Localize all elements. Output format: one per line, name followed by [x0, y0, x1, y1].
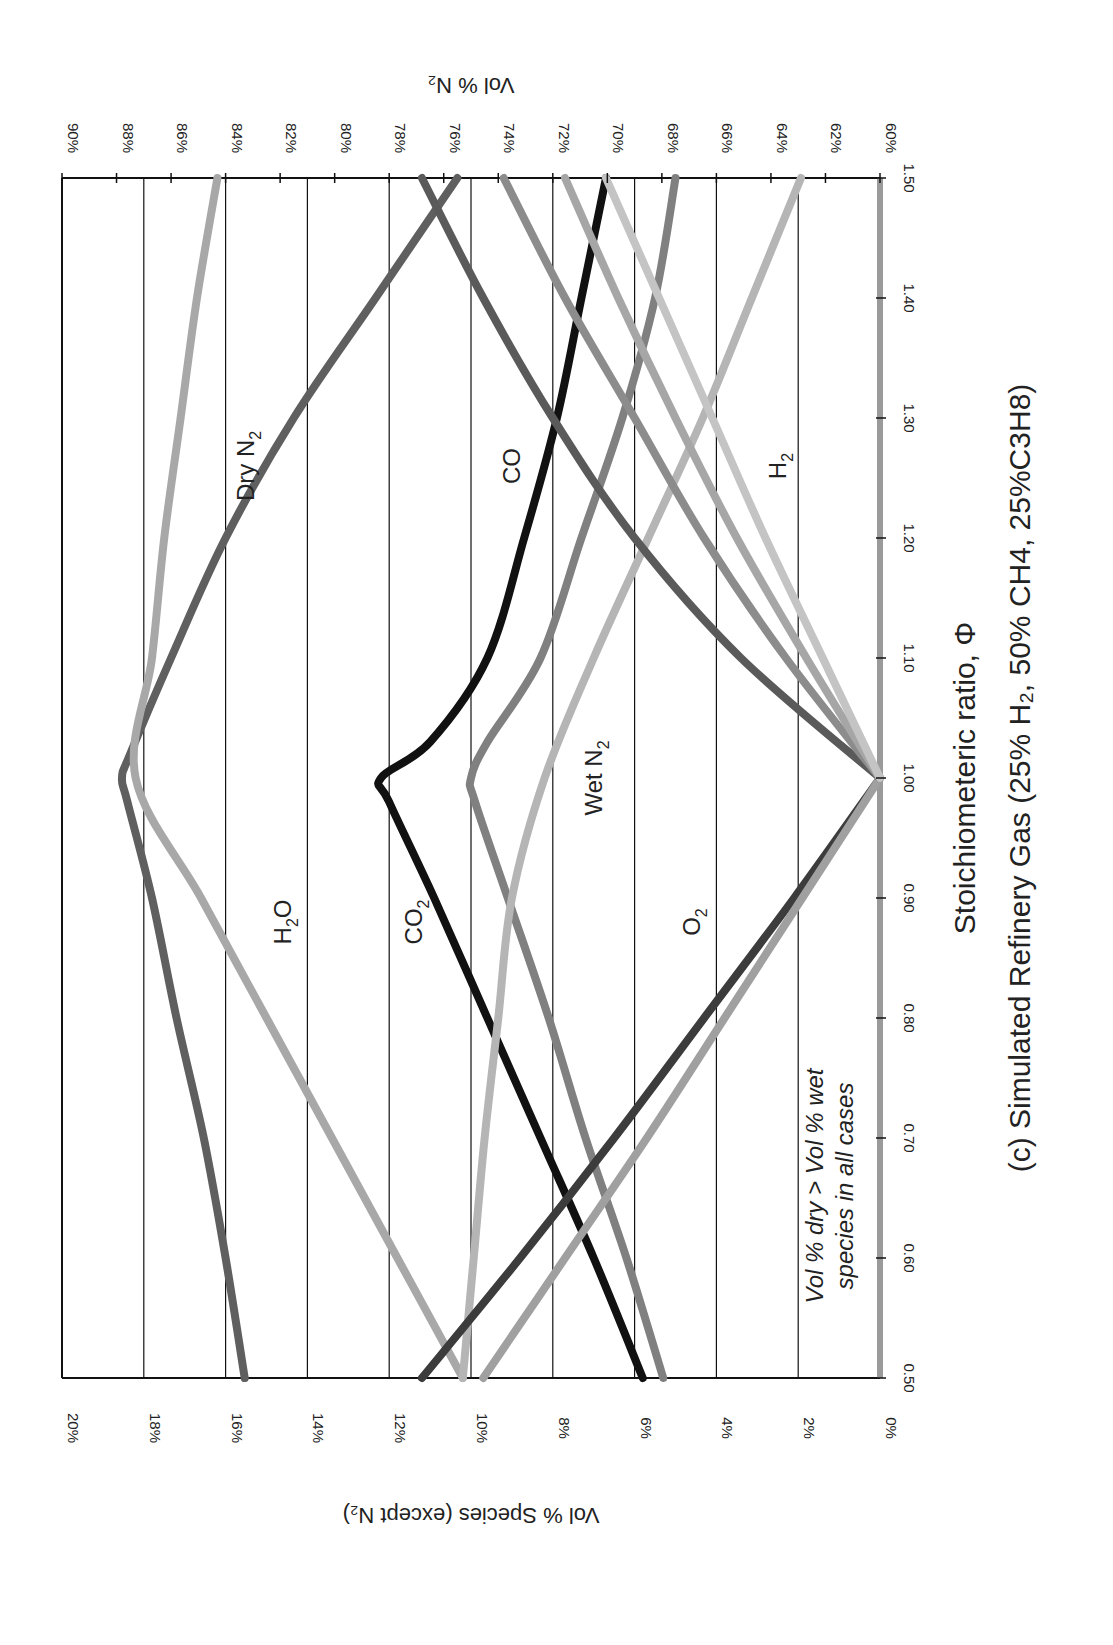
svg-text:species in all cases: species in all cases — [831, 1083, 858, 1290]
y-tick-label: 6% — [638, 1417, 655, 1439]
y2-tick-label: 60% — [883, 123, 900, 153]
svg-text:90%: 90% — [65, 123, 82, 153]
svg-text:0%: 0% — [883, 1417, 900, 1439]
svg-text:1.10: 1.10 — [901, 643, 918, 672]
svg-text:66%: 66% — [719, 123, 736, 153]
series-label: H2O — [269, 900, 301, 945]
y2-tick-label: 74% — [501, 123, 518, 153]
x-axis-title: Stoichiometeric ratio, Φ — [948, 622, 981, 934]
series-labels: Dry N2COH2H2OCO2O2Wet N2Vol % dry > Vol … — [232, 431, 858, 1304]
svg-text:CO2: CO2 — [400, 899, 432, 944]
series-line-dry-n2 — [122, 178, 457, 1378]
y-tick-label: 14% — [310, 1413, 327, 1443]
x-tick-label: 1.00 — [901, 763, 918, 792]
svg-text:1.00: 1.00 — [901, 763, 918, 792]
svg-text:14%: 14% — [310, 1413, 327, 1443]
svg-text:CO: CO — [498, 448, 525, 484]
x-tick-label: 1.30 — [901, 403, 918, 432]
y2-tick-label: 84% — [229, 123, 246, 153]
svg-text:10%: 10% — [474, 1413, 491, 1443]
y-tick-label: 20% — [65, 1413, 82, 1443]
x-tick-label: 1.50 — [901, 163, 918, 192]
y2-tick-label: 86% — [174, 123, 191, 153]
y2-tick-label: 76% — [447, 123, 464, 153]
x-tick-label: 0.80 — [901, 1003, 918, 1032]
rotated-line-chart: 0%2%4%6%8%10%12%14%16%18%20%60%62%64%66%… — [0, 0, 1113, 1645]
y-tick-label: 12% — [392, 1413, 409, 1443]
series-label: Wet N2 — [580, 740, 612, 815]
svg-text:20%: 20% — [65, 1413, 82, 1443]
svg-text:1.40: 1.40 — [901, 283, 918, 312]
svg-text:76%: 76% — [447, 123, 464, 153]
y-tick-label: 10% — [474, 1413, 491, 1443]
svg-text:70%: 70% — [610, 123, 627, 153]
svg-text:1.20: 1.20 — [901, 523, 918, 552]
svg-text:Dry N2: Dry N2 — [232, 431, 264, 501]
svg-text:Wet N2: Wet N2 — [580, 740, 612, 815]
svg-text:16%: 16% — [229, 1413, 246, 1443]
svg-text:78%: 78% — [392, 123, 409, 153]
svg-text:Stoichiometeric ratio, Φ: Stoichiometeric ratio, Φ — [948, 622, 981, 934]
y-tick-label: 0% — [883, 1417, 900, 1439]
y-axis-title: Vol % Species (except N₂) — [343, 1503, 600, 1528]
y2-tick-label: 90% — [65, 123, 82, 153]
y2-tick-label: 64% — [774, 123, 791, 153]
chart-title: (c) Simulated Refinery Gas (25% H₂, 50% … — [1003, 384, 1036, 1173]
svg-text:64%: 64% — [774, 123, 791, 153]
x-tick-label: 0.70 — [901, 1123, 918, 1152]
svg-text:Vol % dry > Vol % wet: Vol % dry > Vol % wet — [801, 1067, 828, 1303]
svg-text:68%: 68% — [665, 123, 682, 153]
y2-tick-label: 68% — [665, 123, 682, 153]
y2-tick-label: 88% — [120, 123, 137, 153]
svg-text:2%: 2% — [801, 1417, 818, 1439]
svg-text:1.50: 1.50 — [901, 163, 918, 192]
svg-text:88%: 88% — [120, 123, 137, 153]
svg-text:O2: O2 — [678, 908, 710, 936]
x-tick-label: 0.60 — [901, 1243, 918, 1272]
svg-text:1.30: 1.30 — [901, 403, 918, 432]
svg-text:12%: 12% — [392, 1413, 409, 1443]
svg-text:74%: 74% — [501, 123, 518, 153]
titles: Vol % Species (except N₂)Vol % N₂Stoichi… — [343, 73, 1036, 1528]
svg-text:62%: 62% — [828, 123, 845, 153]
svg-text:6%: 6% — [638, 1417, 655, 1439]
x-tick-label: 0.50 — [901, 1363, 918, 1392]
svg-text:0.80: 0.80 — [901, 1003, 918, 1032]
svg-text:Vol % N₂: Vol % N₂ — [428, 73, 515, 98]
y-tick-label: 18% — [147, 1413, 164, 1443]
x-tick-label: 1.20 — [901, 523, 918, 552]
y2-axis-title: Vol % N₂ — [428, 73, 515, 98]
svg-text:0.50: 0.50 — [901, 1363, 918, 1392]
x-tick-label: 0.90 — [901, 883, 918, 912]
y2-tick-label: 66% — [719, 123, 736, 153]
svg-text:0.90: 0.90 — [901, 883, 918, 912]
y-tick-label: 8% — [556, 1417, 573, 1439]
svg-text:80%: 80% — [338, 123, 355, 153]
svg-text:H2O: H2O — [269, 900, 301, 945]
annotation-note: Vol % dry > Vol % wetspecies in all case… — [801, 1067, 858, 1303]
series-label: CO — [498, 448, 525, 484]
y2-tick-label: 82% — [283, 123, 300, 153]
svg-text:0.60: 0.60 — [901, 1243, 918, 1272]
svg-text:86%: 86% — [174, 123, 191, 153]
svg-text:(c) Simulated Refinery Gas (25: (c) Simulated Refinery Gas (25% H₂, 50% … — [1003, 384, 1036, 1173]
svg-text:H2: H2 — [764, 453, 796, 479]
x-tick-label: 1.10 — [901, 643, 918, 672]
y-tick-label: 2% — [801, 1417, 818, 1439]
series-line-h2-wet- — [606, 178, 880, 778]
y2-tick-label: 62% — [828, 123, 845, 153]
y2-tick-label: 80% — [338, 123, 355, 153]
svg-text:18%: 18% — [147, 1413, 164, 1443]
x-tick-label: 1.40 — [901, 283, 918, 312]
svg-text:82%: 82% — [283, 123, 300, 153]
svg-text:84%: 84% — [229, 123, 246, 153]
series-label: CO2 — [400, 899, 432, 944]
svg-text:72%: 72% — [556, 123, 573, 153]
y2-tick-label: 70% — [610, 123, 627, 153]
series-line-h2o — [134, 178, 463, 1378]
series-label: O2 — [678, 908, 710, 936]
y2-tick-label: 72% — [556, 123, 573, 153]
series-lines — [122, 178, 880, 1378]
series-label: H2 — [764, 453, 796, 479]
svg-text:4%: 4% — [719, 1417, 736, 1439]
